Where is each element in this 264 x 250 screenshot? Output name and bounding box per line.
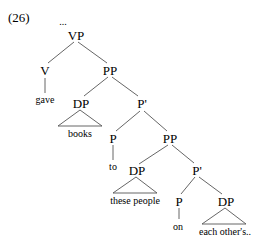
ellipsis: ... [59, 17, 67, 27]
node-pp: PP [103, 64, 117, 77]
leaf-gave: gave [36, 95, 55, 105]
node-dp: DP [218, 195, 235, 208]
leaf-on: on [173, 222, 183, 232]
node-p-bar: P' [137, 97, 147, 110]
node-dp: DP [129, 164, 146, 177]
leaf-to: to [109, 162, 117, 172]
node-p-bar: P' [192, 164, 202, 177]
node-dp: DP [73, 97, 90, 110]
leaf-books: books [68, 129, 92, 139]
leaf-each-others: each other's.. [199, 227, 251, 237]
node-p: P [109, 132, 116, 145]
leaf-these-people: these people [110, 196, 160, 206]
node-pp: PP [163, 132, 177, 145]
tree-branches [0, 0, 264, 250]
node-p: P [175, 195, 182, 208]
node-v: V [40, 64, 49, 77]
example-number: (26) [8, 11, 30, 24]
node-vp: VP [68, 29, 85, 42]
